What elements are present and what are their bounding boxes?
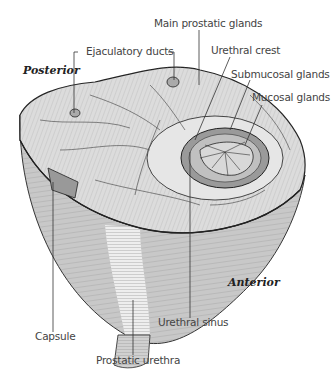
ejaculatory-duct-right bbox=[167, 77, 179, 87]
label-submucosal-glands: Submucosal glands bbox=[231, 68, 330, 80]
label-urethral-sinus: Urethral sinus bbox=[158, 316, 228, 328]
ejaculatory-duct-left bbox=[70, 109, 80, 117]
label-main-prostatic-glands: Main prostatic glands bbox=[154, 17, 262, 29]
label-urethral-crest: Urethral crest bbox=[211, 44, 280, 56]
label-mucosal-glands: Mucosal glands bbox=[252, 91, 330, 103]
prostate-diagram: Main prostatic glands Ejaculatory ducts … bbox=[0, 0, 335, 379]
orientation-anterior: Anterior bbox=[228, 276, 280, 289]
label-ejaculatory-ducts: Ejaculatory ducts bbox=[86, 45, 173, 57]
orientation-posterior: Posterior bbox=[23, 64, 80, 77]
label-prostatic-urethra: Prostatic urethra bbox=[96, 354, 180, 366]
label-capsule: Capsule bbox=[35, 330, 76, 342]
